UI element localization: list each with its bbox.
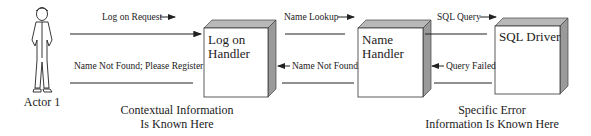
logon-handler-label-1: Log on xyxy=(208,32,246,47)
specific-note-line-2: Information Is Known Here xyxy=(425,117,559,131)
contextual-note-line-2: Is Known Here xyxy=(140,117,213,131)
sql-driver-label: SQL Driver xyxy=(499,29,561,44)
logon-request-label: Log on Request xyxy=(102,12,163,22)
contextual-note-line-1: Contextual Information xyxy=(121,103,234,117)
logon-handler-box: Log on Handler xyxy=(204,20,276,97)
sql-driver-box: SQL Driver xyxy=(495,18,568,94)
logon-handler-label-2: Handler xyxy=(208,46,251,61)
specific-note-line-1: Specific Error xyxy=(458,103,526,117)
name-not-found-label: Name Not Found xyxy=(292,61,358,71)
name-handler-label-2: Handler xyxy=(362,46,405,61)
name-handler-label-1: Name xyxy=(362,32,393,47)
error-propagation-diagram: Actor 1 Log on Handler Name Handler SQL … xyxy=(0,0,591,136)
register-return-label: Name Not Found; Please Register xyxy=(74,61,204,71)
actor-label: Actor 1 xyxy=(24,95,60,109)
name-handler-box: Name Handler xyxy=(358,20,431,97)
sql-query-label: SQL Query xyxy=(437,12,481,22)
name-lookup-label: Name Lookup xyxy=(284,12,339,22)
query-failed-label: Query Failed xyxy=(446,61,496,71)
actor-figure-icon xyxy=(32,8,52,93)
